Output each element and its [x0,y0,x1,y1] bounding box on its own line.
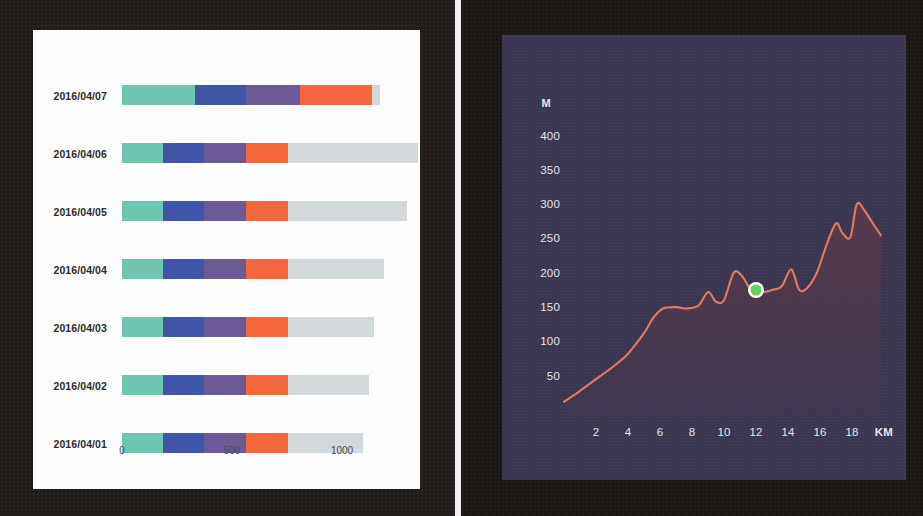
bar-stack[interactable] [122,259,384,279]
y-axis-tick-label: 50 [547,370,560,382]
bar-segment-gray[interactable] [288,317,374,337]
bar-segment-teal[interactable] [122,375,163,395]
bar-row[interactable]: 2016/04/04 [33,259,420,281]
bar-segment-gray[interactable] [288,201,407,221]
elevation-curve-svg [502,35,906,480]
bar-row-label: 2016/04/04 [33,264,107,276]
x-axis-tick-label: 14 [781,426,794,438]
x-axis-tick-label: 500 [224,445,241,456]
y-axis-tick-label: 150 [540,301,560,313]
x-axis-tick-label: 6 [657,426,664,438]
x-axis-tick-label: 1000 [331,445,353,456]
bar-segment-orange[interactable] [246,375,288,395]
bar-row-label: 2016/04/03 [33,322,107,334]
bar-segment-gray[interactable] [288,375,369,395]
y-axis-tick-label: 300 [540,198,560,210]
right-photo-panel: M5010015020025030035040024681012141618KM [461,0,923,516]
bar-row-label: 2016/04/02 [33,380,107,392]
bar-row-label: 2016/04/05 [33,206,107,218]
x-axis-unit-label: KM [875,426,893,438]
x-axis-tick-label: 10 [717,426,730,438]
bar-stack[interactable] [122,317,374,337]
bar-row[interactable]: 2016/04/05 [33,201,420,223]
bar-segment-purple[interactable] [204,259,246,279]
y-axis-tick-label: 200 [540,267,560,279]
bar-segment-orange[interactable] [246,201,288,221]
y-axis-tick-label: 250 [540,232,560,244]
bar-segment-blue[interactable] [163,375,205,395]
bar-segment-teal[interactable] [122,201,163,221]
bar-segment-orange[interactable] [246,143,288,163]
x-axis-tick-label: 2 [593,426,600,438]
bar-segment-gray[interactable] [372,85,381,105]
elevation-area-fill [564,203,881,410]
y-axis-tick-label: 400 [540,130,560,142]
bar-segment-orange[interactable] [246,259,288,279]
bar-segment-purple[interactable] [204,201,246,221]
bar-row[interactable]: 2016/04/02 [33,375,420,397]
bar-stack[interactable] [122,143,418,163]
left-photo-panel: 2016/04/072016/04/062016/04/052016/04/04… [0,0,461,516]
y-axis-tick-label: 100 [540,335,560,347]
bar-segment-teal[interactable] [122,317,163,337]
bar-segment-gray[interactable] [288,143,418,163]
bar-row[interactable]: 2016/04/06 [33,143,420,165]
bar-stack[interactable] [122,375,369,395]
bar-stack[interactable] [122,85,380,105]
x-axis-tick-label: 4 [625,426,632,438]
x-axis-tick-label: 0 [119,445,125,456]
x-axis-tick-label: 18 [845,426,858,438]
screenshot-stage: 2016/04/072016/04/062016/04/052016/04/04… [0,0,923,516]
bar-segment-purple[interactable] [204,143,246,163]
bar-segment-teal[interactable] [122,85,195,105]
x-axis-tick-label: 16 [813,426,826,438]
bar-segment-blue[interactable] [163,143,205,163]
stacked-bar-chart-card: 2016/04/072016/04/062016/04/052016/04/04… [33,30,420,489]
bar-segment-purple[interactable] [204,375,246,395]
bar-segment-purple[interactable] [246,85,300,105]
bar-segment-teal[interactable] [122,259,163,279]
y-axis-tick-label: 350 [540,164,560,176]
y-axis-unit-label: M [541,97,550,109]
position-marker-dot[interactable] [751,284,762,295]
elevation-profile-chart: M5010015020025030035040024681012141618KM [502,35,906,480]
bar-segment-orange[interactable] [246,317,288,337]
bar-row[interactable]: 2016/04/03 [33,317,420,339]
bar-row[interactable]: 2016/04/07 [33,85,420,107]
bar-stack[interactable] [122,201,407,221]
bar-segment-teal[interactable] [122,143,163,163]
bar-segment-blue[interactable] [163,317,205,337]
bar-segment-blue[interactable] [195,85,247,105]
bar-segment-blue[interactable] [163,259,205,279]
bar-row-label: 2016/04/07 [33,90,107,102]
bar-segment-gray[interactable] [288,259,384,279]
bar-segment-blue[interactable] [163,201,205,221]
bar-segment-purple[interactable] [204,317,246,337]
stacked-bar-plot-area: 2016/04/072016/04/062016/04/052016/04/04… [33,30,420,489]
bar-row-label: 2016/04/06 [33,148,107,160]
bar-segment-orange[interactable] [300,85,372,105]
x-axis-tick-label: 12 [749,426,762,438]
x-axis-tick-label: 8 [689,426,696,438]
bar-chart-x-axis: 05001000 [33,445,420,469]
